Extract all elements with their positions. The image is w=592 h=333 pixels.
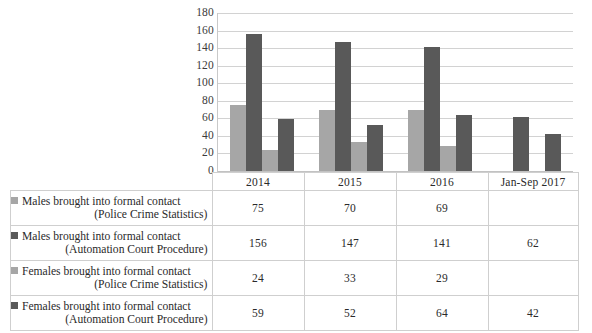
column-header-2016: 2016 — [396, 173, 488, 191]
table-cell-r1-c1: 75 — [212, 191, 304, 226]
legend-label-line1: Males brought into formal contact — [11, 195, 212, 209]
bar-s2-2016 — [424, 47, 440, 171]
bar-s4-2014 — [278, 119, 294, 171]
table-cell-r4-c4: 42 — [488, 296, 578, 331]
legend-label-text: Females brought into formal contact — [22, 265, 191, 278]
bar-s2-2015 — [335, 42, 351, 171]
legend-cell-1: Males brought into formal contact(Police… — [11, 191, 213, 226]
plot-area — [218, 13, 573, 171]
table-cell-r2-c4: 62 — [488, 226, 578, 261]
table-row: Males brought into formal contact(Automa… — [11, 226, 579, 261]
y-tick-label-140: 140 — [184, 42, 214, 54]
bar-s4-2015 — [367, 125, 383, 171]
table-row: Males brought into formal contact(Police… — [11, 191, 579, 226]
table-header-row: 2014 2015 2016 Jan-Sep 2017 — [11, 173, 579, 191]
table-corner-cell — [11, 173, 213, 191]
legend-label-text: Males brought into formal contact — [22, 230, 180, 243]
bar-series-group — [218, 13, 573, 171]
bar-s1-2016 — [408, 110, 424, 171]
table-cell-r1-c4 — [488, 191, 578, 226]
bar-s3-2016 — [440, 146, 456, 171]
table-cell-r2-c1: 156 — [212, 226, 304, 261]
table-cell-r1-c2: 70 — [304, 191, 396, 226]
bar-s1-2014 — [230, 105, 246, 171]
legend-swatch-icon — [11, 267, 18, 274]
table-cell-r4-c1: 59 — [212, 296, 304, 331]
bar-s1-2015 — [319, 110, 335, 171]
legend-label-line1: Females brought into formal contact — [11, 265, 212, 279]
legend-swatch-icon — [11, 232, 18, 239]
legend-cell-4: Females brought into formal contact(Auto… — [11, 296, 213, 331]
table-cell-r2-c3: 141 — [396, 226, 488, 261]
column-header-2015: 2015 — [304, 173, 396, 191]
bar-s4-2016 — [456, 115, 472, 171]
table-cell-r4-c2: 52 — [304, 296, 396, 331]
y-tick-label-40: 40 — [184, 130, 214, 142]
legend-label-line2: (Automation Court Procedure) — [11, 243, 212, 257]
legend-cell-3: Females brought into formal contact(Poli… — [11, 261, 213, 296]
legend-label-line2: (Police Crime Statistics) — [11, 278, 212, 292]
table-cell-r3-c4 — [488, 261, 578, 296]
legend-label-line1: Males brought into formal contact — [11, 230, 212, 244]
y-tick-label-100: 100 — [184, 77, 214, 89]
bar-chart: 180160140120100806040200 — [0, 8, 592, 190]
legend-swatch-icon — [11, 302, 18, 309]
legend-label-line2: (Automation Court Procedure) — [11, 313, 212, 327]
column-header-jan-sep-2017: Jan-Sep 2017 — [488, 173, 578, 191]
legend-label-line2: (Police Crime Statistics) — [11, 208, 212, 222]
bar-s2-jan-sep-2017 — [513, 117, 529, 171]
table-row: Females brought into formal contact(Poli… — [11, 261, 579, 296]
y-axis-tick-labels: 180160140120100806040200 — [184, 8, 214, 170]
y-tick-label-180: 180 — [184, 7, 214, 19]
data-table: 2014 2015 2016 Jan-Sep 2017 Males brough… — [10, 172, 579, 331]
y-tick-label-80: 80 — [184, 95, 214, 107]
y-tick-label-20: 20 — [184, 147, 214, 159]
legend-label-line1: Females brought into formal contact — [11, 300, 212, 314]
table-cell-r3-c3: 29 — [396, 261, 488, 296]
table-cell-r3-c2: 33 — [304, 261, 396, 296]
legend-cell-2: Males brought into formal contact(Automa… — [11, 226, 213, 261]
y-tick-label-120: 120 — [184, 60, 214, 72]
bar-s3-2014 — [262, 150, 278, 171]
y-tick-label-60: 60 — [184, 112, 214, 124]
table-cell-r4-c3: 64 — [396, 296, 488, 331]
table-cell-r1-c3: 69 — [396, 191, 488, 226]
y-tick-label-160: 160 — [184, 25, 214, 37]
bar-s2-2014 — [246, 34, 262, 171]
legend-label-text: Females brought into formal contact — [22, 300, 191, 313]
legend-label-text: Males brought into formal contact — [22, 195, 180, 208]
column-header-2014: 2014 — [212, 173, 304, 191]
table-row: Females brought into formal contact(Auto… — [11, 296, 579, 331]
table-cell-r2-c2: 147 — [304, 226, 396, 261]
table-cell-r3-c1: 24 — [212, 261, 304, 296]
chart-with-data-table: 180160140120100806040200 2014 2015 2016 … — [0, 0, 592, 333]
legend-swatch-icon — [11, 197, 18, 204]
bar-s4-jan-sep-2017 — [545, 134, 561, 171]
bar-s3-2015 — [351, 142, 367, 171]
